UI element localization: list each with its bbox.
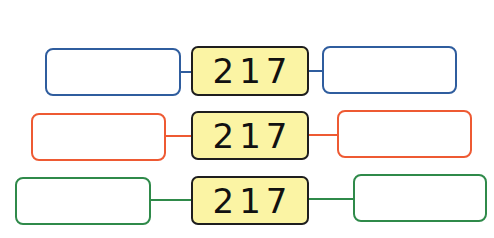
- row3-right-connector: [309, 198, 353, 200]
- row1-left-answer-box[interactable]: [45, 48, 181, 96]
- row1-left-connector: [181, 71, 191, 73]
- row3-left-answer-box[interactable]: [15, 177, 151, 225]
- row1-right-answer-box[interactable]: [322, 46, 457, 94]
- row2-number-box: 217: [191, 111, 309, 160]
- row2-right-answer-box[interactable]: [337, 110, 472, 158]
- row1-number-box: 217: [191, 46, 309, 96]
- row1-number: 217: [213, 51, 293, 91]
- row3-left-connector: [151, 199, 191, 201]
- row3-right-answer-box[interactable]: [353, 174, 487, 222]
- row2-number: 217: [213, 116, 293, 156]
- row1-right-connector: [309, 70, 322, 72]
- row2-left-answer-box[interactable]: [31, 113, 166, 161]
- row2-left-connector: [166, 135, 191, 137]
- row2-right-connector: [309, 134, 337, 136]
- row3-number: 217: [213, 181, 293, 221]
- row3-number-box: 217: [191, 176, 309, 225]
